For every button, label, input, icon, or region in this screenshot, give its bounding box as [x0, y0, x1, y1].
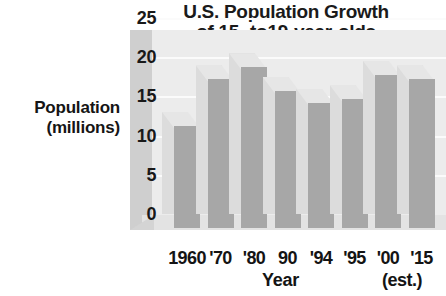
y-tick-label-10: 10	[137, 125, 156, 146]
population-growth-bar-chart: U.S. Population Growth of 15- to19-year-…	[0, 0, 446, 296]
y-tick-label-15: 15	[137, 86, 156, 107]
gridline-25	[152, 18, 446, 20]
x-axis-title: Year	[262, 270, 299, 291]
y-axis-label-line-1: Population	[2, 98, 120, 118]
x-axis-ticks: 1960'70'8090'94'95'00'15	[130, 248, 446, 272]
y-tick-label-20: 20	[137, 47, 156, 68]
estimate-note: (est.)	[382, 270, 422, 291]
plot-area: 0510152025	[130, 30, 446, 230]
y-axis-label: Population (millions)	[2, 98, 120, 137]
y-tick-label-25: 25	[137, 8, 156, 29]
gridline-20	[152, 57, 446, 59]
y-tick-label-0: 0	[146, 204, 156, 225]
bar-front-face	[409, 79, 435, 228]
y-tick-label-5: 5	[146, 164, 156, 185]
y-axis-label-line-2: (millions)	[2, 118, 120, 138]
x-tick-label-15: '15	[402, 248, 442, 269]
